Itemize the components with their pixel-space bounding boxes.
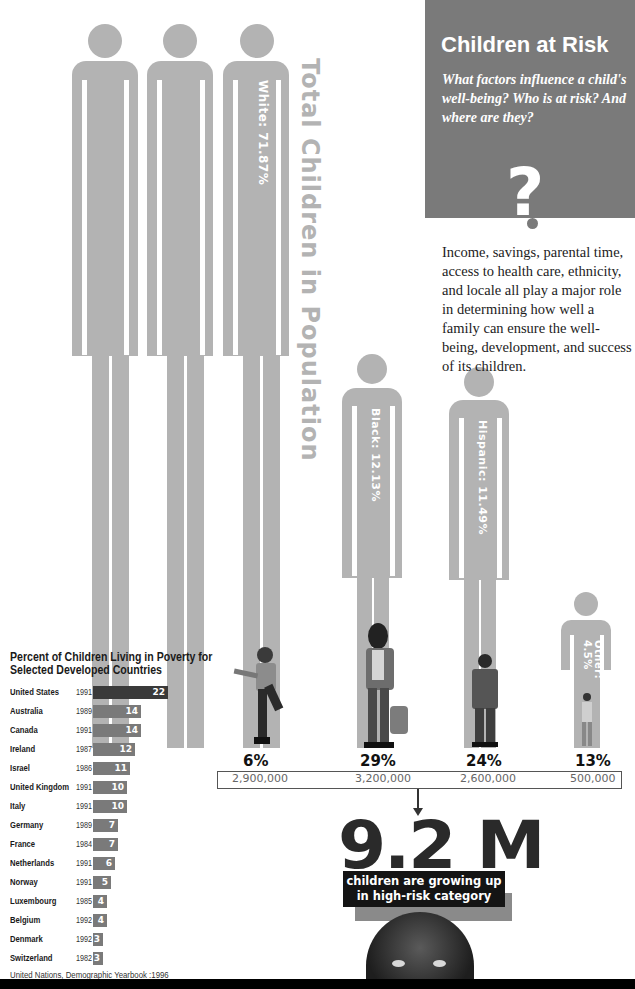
poverty-bar: 11 [93, 762, 130, 775]
bar-value: 6 [106, 858, 112, 868]
country-label: United Kingdom [10, 782, 69, 792]
bottom-bar [0, 979, 635, 989]
year-label: 1991 [76, 877, 92, 887]
eye-left [392, 960, 405, 967]
year-label: 1984 [76, 839, 92, 849]
poverty-bar: 10 [93, 781, 127, 794]
child-photo-white [230, 645, 285, 747]
poverty-bar: 6 [93, 857, 115, 870]
poverty-bar: 12 [93, 743, 135, 756]
country-label: United States [10, 687, 59, 697]
poverty-bar: 4 [93, 914, 107, 927]
bar-value: 4 [98, 915, 104, 925]
poverty-bar: 14 [93, 724, 141, 737]
country-label: Belgium [10, 915, 40, 925]
bar-value: 3 [94, 934, 100, 944]
bar-value: 10 [111, 782, 124, 792]
year-label: 1992 [76, 915, 92, 925]
country-label: Australia [10, 706, 43, 716]
eye-right [433, 960, 446, 967]
country-label: Canada [10, 725, 38, 735]
bar-value: 4 [98, 896, 104, 906]
count-other: 500,000 [570, 772, 616, 785]
country-label: Israel [10, 763, 30, 773]
risk-pct-white: 6% [243, 752, 268, 770]
description-text: Income, savings, parental time, access t… [442, 243, 632, 376]
poverty-bar: 7 [93, 819, 118, 832]
question-mark-dot [527, 218, 538, 229]
year-label: 1991 [76, 687, 92, 697]
question-mark-icon: ? [506, 160, 544, 226]
poverty-bar: 3 [93, 933, 103, 946]
poverty-bar: 7 [93, 838, 118, 851]
child-photo-black [356, 622, 412, 748]
poverty-chart-title-line-2: Selected Developed Countries [10, 664, 212, 677]
year-label: 1991 [76, 858, 92, 868]
poverty-chart-title: Percent of Children Living in Poverty fo… [10, 651, 212, 677]
country-label: Ireland [10, 744, 35, 754]
year-label: 1982 [76, 953, 92, 963]
total-children-axis-label: Total Children in Population [296, 58, 324, 462]
poverty-bar: 5 [93, 876, 111, 889]
country-label: Denmark [10, 934, 43, 944]
country-label: Luxembourg [10, 896, 56, 906]
country-label: France [10, 839, 35, 849]
total-at-risk-number: 9.2 M [338, 814, 543, 878]
risk-pct-black: 29% [360, 752, 396, 770]
child-face-photo [366, 912, 474, 989]
country-label: Norway [10, 877, 38, 887]
bar-value: 10 [111, 801, 124, 811]
poverty-bar: 3 [93, 952, 103, 965]
count-hispanic: 2,600,000 [460, 772, 516, 785]
white-share-label: White: 71.87% [256, 80, 270, 185]
country-label: Germany [10, 820, 43, 830]
bar-value: 5 [102, 877, 108, 887]
year-label: 1989 [76, 706, 92, 716]
year-label: 1985 [76, 896, 92, 906]
bar-value: 3 [94, 953, 100, 963]
poverty-bar: 10 [93, 800, 127, 813]
risk-pct-hispanic: 24% [466, 752, 502, 770]
banner-line-1: children are growing up [343, 874, 505, 889]
risk-pct-other: 13% [575, 752, 611, 770]
at-risk-banner: children are growing up in high-risk cat… [343, 871, 505, 907]
year-label: 1986 [76, 763, 92, 773]
poverty-bar: 14 [93, 705, 141, 718]
bar-value: 7 [109, 820, 115, 830]
country-label: Italy [10, 801, 25, 811]
child-photo-hispanic [465, 652, 505, 748]
hispanic-share-label: Hispanic: 11.49% [476, 420, 489, 535]
poverty-bar: 22 [93, 686, 168, 699]
country-label: Switzerland [10, 953, 53, 963]
country-label: Netherlands [10, 858, 54, 868]
year-label: 1989 [76, 820, 92, 830]
year-label: 1987 [76, 744, 92, 754]
bar-value: 14 [125, 706, 138, 716]
bar-value: 11 [114, 763, 127, 773]
count-white: 2,900,000 [232, 772, 288, 785]
year-label: 1991 [76, 782, 92, 792]
bar-value: 22 [152, 687, 165, 697]
bar-value: 12 [119, 744, 132, 754]
page-title: Children at Risk [441, 32, 608, 58]
banner-line-2: in high-risk category [343, 889, 505, 904]
bar-value: 7 [109, 839, 115, 849]
year-label: 1991 [76, 725, 92, 735]
count-black: 3,200,000 [355, 772, 411, 785]
year-label: 1992 [76, 934, 92, 944]
intro-questions: What factors influence a child's well-be… [442, 70, 627, 127]
bar-value: 14 [125, 725, 138, 735]
black-share-label: Black: 12.13% [369, 408, 382, 502]
poverty-bar: 4 [93, 895, 107, 908]
child-photo-other [578, 692, 596, 748]
year-label: 1991 [76, 801, 92, 811]
